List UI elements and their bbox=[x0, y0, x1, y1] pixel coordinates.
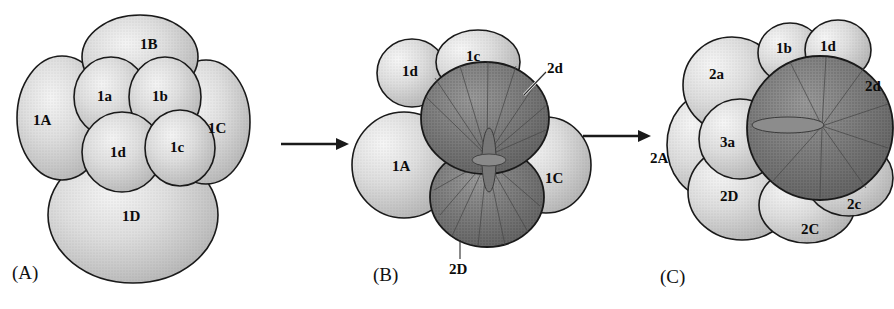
mitotic-spindle-c bbox=[752, 117, 824, 133]
cell-label-b-1A: 1A bbox=[392, 158, 410, 175]
arrow-a-to-b bbox=[281, 138, 349, 150]
cell-label-1a: 1a bbox=[97, 88, 112, 105]
panel-label-b: (B) bbox=[373, 264, 398, 286]
cell-label-c-3a: 3a bbox=[720, 134, 735, 151]
cell-label-1D: 1D bbox=[122, 208, 140, 225]
arrow-b-to-c bbox=[583, 130, 651, 142]
cell-label-b-1c: 1c bbox=[466, 48, 480, 65]
cell-label-1A: 1A bbox=[33, 112, 51, 129]
cell-label-b-2D: 2D bbox=[449, 261, 467, 278]
cell-label-c-1b: 1b bbox=[776, 40, 792, 57]
cropped-caption-text bbox=[0, 0, 894, 7]
figure-root: 1B 1a 1b 1A 1C 1d 1c 1D 1d 1c 2d 1A 1C 2… bbox=[0, 0, 894, 309]
embryo-cleavage-illustration bbox=[0, 0, 894, 309]
cell-label-1B: 1B bbox=[140, 36, 158, 53]
cell-label-b-2d: 2d bbox=[547, 60, 563, 77]
cell-label-1C: 1C bbox=[208, 120, 226, 137]
panel-label-c: (C) bbox=[660, 266, 685, 288]
panel-a-embryo bbox=[17, 15, 250, 283]
cell-label-c-2c: 2c bbox=[847, 196, 861, 213]
cell-label-b-1d: 1d bbox=[402, 63, 418, 80]
cell-label-b-1C: 1C bbox=[545, 170, 563, 187]
cell-label-c-2d: 2d bbox=[865, 78, 881, 95]
panel-label-a: (A) bbox=[12, 262, 38, 284]
cell-label-c-2a: 2a bbox=[709, 66, 724, 83]
cell-label-c-2C: 2C bbox=[801, 221, 819, 238]
cell-label-c-1d: 1d bbox=[820, 38, 836, 55]
cell-label-1d: 1d bbox=[110, 144, 126, 161]
cell-label-1b: 1b bbox=[152, 88, 168, 105]
cell-label-c-2A: 2A bbox=[650, 150, 668, 167]
cell-label-c-2D: 2D bbox=[720, 188, 738, 205]
cell-label-1c: 1c bbox=[170, 139, 184, 156]
